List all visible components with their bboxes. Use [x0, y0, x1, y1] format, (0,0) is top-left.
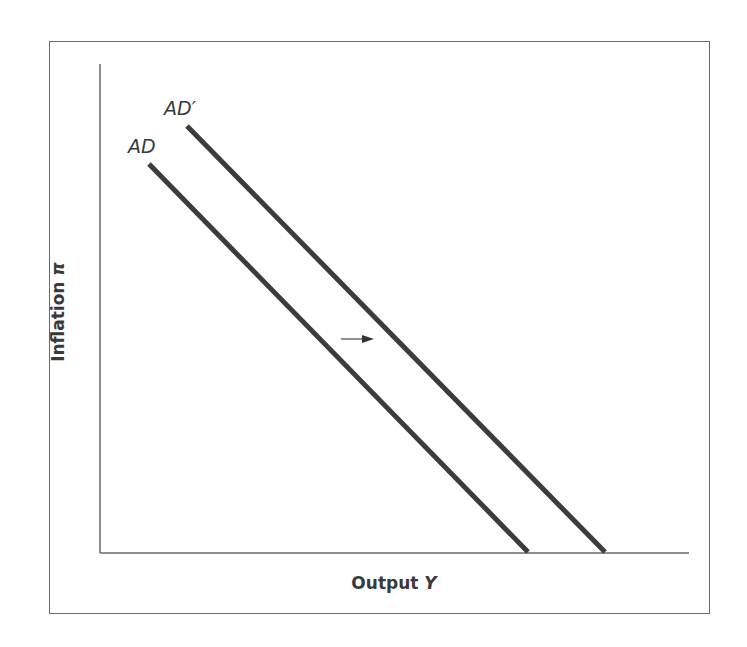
- ad-curve: [149, 164, 528, 552]
- diagram-canvas: [0, 0, 747, 647]
- ad-label: AD: [128, 135, 156, 157]
- x-axis-variable: Y: [424, 573, 436, 593]
- x-axis-label: Output Y: [351, 573, 436, 593]
- ad-prime-label: AD′: [164, 97, 196, 119]
- y-axis-variable: π: [48, 262, 68, 275]
- ad-prime-curve: [187, 126, 605, 552]
- x-axis-label-text: Output: [351, 573, 418, 593]
- shift-arrow-icon: [341, 335, 374, 343]
- y-axis-label: Inflation π: [48, 262, 68, 362]
- y-axis-label-text: Inflation: [48, 282, 68, 362]
